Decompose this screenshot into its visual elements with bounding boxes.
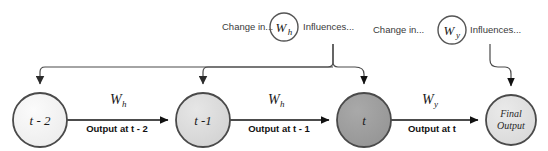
node-t-minus-2-label: t - 2: [30, 113, 51, 128]
weight-node-wy[interactable]: W y: [438, 16, 466, 44]
node-final-output-label-line2: Output: [497, 120, 525, 131]
edge-weight-label-1: W h: [110, 92, 127, 109]
weight-node-wh-subscript: h: [288, 27, 293, 37]
edge-output-label-3: Output at t: [408, 123, 457, 134]
diagram-canvas: t - 2 t -1 t Final Output W h W y W: [0, 0, 548, 151]
node-final-output-label-line1: Final: [499, 108, 522, 119]
wy-influence-bracket: [490, 44, 511, 86]
annotation-change-in-wy: Change in...: [373, 24, 424, 35]
diagram-svg: t - 2 t -1 t Final Output W h W y W: [0, 0, 548, 151]
node-t-minus-1[interactable]: t -1: [176, 93, 230, 147]
node-t-minus-1-label: t -1: [194, 113, 212, 128]
edge-weight-label-2: W h: [268, 92, 285, 109]
node-t[interactable]: t: [337, 93, 391, 147]
node-t-minus-2[interactable]: t - 2: [13, 93, 67, 147]
edge-weight-label-3: W y: [422, 92, 438, 109]
annotation-influences-wy: Influences...: [470, 24, 521, 35]
annotation-influences-wh: Influences...: [303, 21, 354, 32]
weight-node-wh-label: W: [276, 20, 288, 35]
edge-output-label-1: Output at t - 2: [86, 123, 148, 134]
annotation-change-in-wh: Change in...: [222, 21, 273, 32]
node-t-label: t: [362, 113, 366, 128]
weight-node-wy-label: W: [444, 23, 456, 38]
edge-weight-2-sub: h: [280, 99, 285, 109]
node-final-output[interactable]: Final Output: [486, 95, 536, 145]
wh-influence-bracket: [40, 44, 364, 84]
weight-node-wy-subscript: y: [455, 30, 460, 40]
edge-weight-1-sub: h: [122, 99, 127, 109]
edge-output-label-2: Output at t - 1: [248, 123, 310, 134]
edge-weight-3-sub: y: [433, 99, 438, 109]
weight-node-wh[interactable]: W h: [270, 13, 298, 41]
